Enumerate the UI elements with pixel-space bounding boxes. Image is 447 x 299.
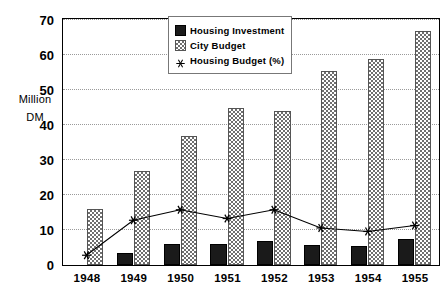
legend-item-housing-budget-pct: Housing Budget (%) [175, 53, 284, 67]
y-axis-tick-label: 70 [0, 12, 54, 27]
y-axis-tick-label: 30 [0, 152, 54, 167]
x-axis-tick-label: 1951 [214, 272, 241, 284]
y-axis-tick-label: 50 [0, 82, 54, 97]
legend-item-city-budget: City Budget [175, 38, 284, 52]
asterisk-marker [176, 206, 185, 214]
legend-label-housing-budget-pct: Housing Budget (%) [190, 55, 284, 66]
chart-legend: Housing Investment City Budget Housing B… [168, 16, 292, 74]
x-axis-tick-label: 1949 [120, 272, 147, 284]
y-axis-tick-label: 10 [0, 222, 54, 237]
x-axis-tick-label: 1950 [167, 272, 194, 284]
chart-container: Million DM 010203040506070 1948194919501… [0, 0, 447, 299]
x-axis-tick-label: 1953 [308, 272, 335, 284]
x-axis-tick-label: 1955 [402, 272, 429, 284]
asterisk-marker [363, 228, 372, 236]
filled-square-icon [175, 25, 186, 36]
x-axis-tick-label: 1954 [355, 272, 382, 284]
asterisk-marker [316, 224, 325, 232]
x-axis-tick-label: 1948 [74, 272, 101, 284]
y-axis-tick-label: 0 [0, 257, 54, 272]
legend-item-housing-investment: Housing Investment [175, 23, 284, 37]
asterisk-icon [175, 55, 186, 66]
asterisk-marker [410, 222, 419, 230]
legend-label-housing-investment: Housing Investment [190, 25, 284, 36]
checkered-square-icon [175, 40, 186, 51]
legend-label-city-budget: City Budget [190, 40, 246, 51]
asterisk-marker [223, 215, 232, 223]
y-axis-tick-label: 40 [0, 117, 54, 132]
y-axis-tick-label: 20 [0, 187, 54, 202]
asterisk-marker [270, 206, 279, 214]
y-axis-tick-label: 60 [0, 47, 54, 62]
x-axis-tick-label: 1952 [261, 272, 288, 284]
